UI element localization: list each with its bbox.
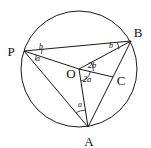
angle-label-P-upper: b	[39, 42, 43, 51]
angle-arc-A	[76, 110, 85, 112]
point-label-C: C	[117, 73, 126, 88]
point-label-P: P	[7, 44, 14, 59]
point-label-A: A	[84, 134, 94, 148]
geometry-diagram: P B A O C b a b 2b 2a a	[0, 0, 151, 148]
geometry-canvas: P B A O C b a b 2b 2a a	[0, 0, 151, 148]
angle-label-O-upper: 2b	[88, 60, 97, 70]
angle-label-O-lower: 2a	[83, 74, 92, 84]
angle-label-A: a	[78, 100, 82, 109]
segment-P-A	[24, 51, 88, 127]
point-label-O: O	[66, 66, 75, 81]
angle-label-P-lower: a	[36, 54, 40, 63]
point-label-B: B	[134, 25, 143, 40]
angle-label-B: b	[109, 41, 113, 50]
